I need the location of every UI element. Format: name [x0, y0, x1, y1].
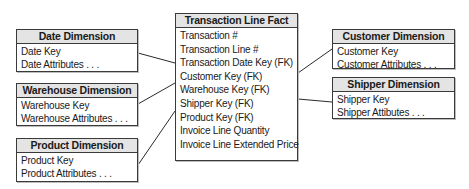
date-dimension-title: Date Dimension: [17, 30, 137, 44]
warehouse-dimension-box: Warehouse Dimension Warehouse Key Wareho…: [16, 83, 138, 126]
customer-dimension-box: Customer Dimension Customer Key Customer…: [332, 29, 455, 69]
fact-field-invoice-line-extended-price: Invoice Line Extended Price: [180, 138, 297, 152]
date-attributes-field: Date Attributes . . .: [21, 58, 137, 71]
customer-dimension-title: Customer Dimension: [333, 30, 454, 44]
product-dimension-box: Product Dimension Product Key Product At…: [16, 138, 138, 182]
connector-warehouse-fact: [138, 83, 175, 104]
customer-attributes-field: Customer Attributes . . .: [337, 58, 454, 71]
warehouse-attributes-field: Warehouse Attributes . . .: [21, 112, 137, 125]
shipper-dimension-box: Shipper Dimension Shipper Key Shipper At…: [332, 77, 455, 119]
connector-customer-fact: [298, 49, 332, 73]
shipper-dimension-title: Shipper Dimension: [333, 78, 454, 92]
shipper-key-field: Shipper Key: [337, 93, 454, 106]
fact-field-product-key: Product Key (FK): [180, 111, 297, 125]
warehouse-dimension-title: Warehouse Dimension: [17, 84, 137, 98]
date-key-field: Date Key: [21, 45, 137, 58]
fact-field-transaction-number: Transaction #: [180, 29, 297, 43]
fact-field-transaction-line-number: Transaction Line #: [180, 43, 297, 57]
warehouse-key-field: Warehouse Key: [21, 99, 137, 112]
connector-product-fact: [138, 111, 175, 165]
date-dimension-box: Date Dimension Date Key Date Attributes …: [16, 29, 138, 72]
shipper-attributes-field: Shipper Attibutes . . .: [337, 106, 454, 119]
fact-field-shipper-key: Shipper Key (FK): [180, 97, 297, 111]
product-key-field: Product Key: [21, 154, 137, 167]
product-attributes-field: Product Attributes . . .: [21, 167, 137, 180]
transaction-line-fact-box: Transaction Line Fact Transaction # Tran…: [175, 13, 298, 161]
connector-date-fact: [138, 53, 175, 63]
connector-shipper-fact: [298, 99, 332, 102]
fact-field-customer-key: Customer Key (FK): [180, 70, 297, 84]
customer-key-field: Customer Key: [337, 45, 454, 58]
fact-field-transaction-date-key: Transaction Date Key (FK): [180, 56, 297, 70]
fact-field-invoice-line-quantity: Invoice Line Quantity: [180, 124, 297, 138]
product-dimension-title: Product Dimension: [17, 139, 137, 153]
fact-title: Transaction Line Fact: [176, 14, 297, 28]
fact-field-warehouse-key: Warehouse Key (FK): [180, 83, 297, 97]
